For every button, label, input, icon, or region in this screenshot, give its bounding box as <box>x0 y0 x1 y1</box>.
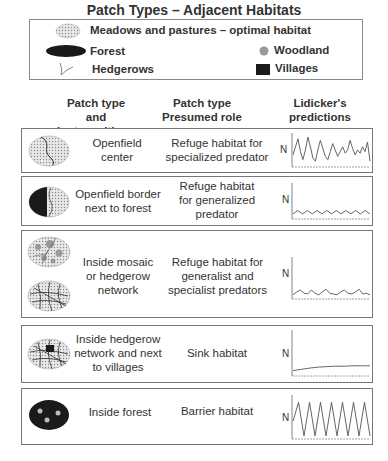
series-line <box>293 137 370 161</box>
woodland-gray-circle-icon <box>258 45 270 57</box>
legend-label-meadows: Meadows and pastures – optimal habitat <box>90 24 311 36</box>
role-label: Refuge habitat for specialized predator <box>162 136 272 164</box>
village-black-square-icon <box>255 63 271 76</box>
column-header-predictions: Lidicker's predictions <box>280 96 360 124</box>
meadow-stipple-ellipse-icon <box>55 23 81 39</box>
prediction-chart <box>290 393 372 443</box>
table-row: Inside forest Barrier habitat N <box>21 388 373 445</box>
hedgerow-line-icon <box>58 61 76 77</box>
forest-black-ellipse-icon <box>45 44 87 58</box>
inside-forest-icon <box>27 398 71 432</box>
role-label: Refuge habitat for generalist and specia… <box>160 255 275 297</box>
role-label: Barrier habitat <box>177 404 257 418</box>
role-label: Refuge habitat for generalized predator <box>174 179 260 221</box>
series-line <box>293 289 370 295</box>
mosaic-hedgerow-network-icon <box>26 234 72 316</box>
column-header-role: Patch type Presumed role <box>162 96 242 124</box>
legend-label-forest: Forest <box>90 45 125 57</box>
axis-label-n: N <box>282 412 289 423</box>
table-row: Openfield center Refuge habitat for spec… <box>21 128 373 173</box>
table-row: Inside hedgerow network and next to vill… <box>21 325 373 383</box>
axis-label-n: N <box>282 348 289 359</box>
patch-label: Inside mosaic or hedgerow network <box>77 255 159 297</box>
prediction-chart <box>290 255 372 303</box>
role-label: Sink habitat <box>177 346 257 360</box>
table-row: Inside mosaic or hedgerow network Refuge… <box>21 230 373 318</box>
series-line <box>293 211 370 214</box>
axis-label-n: N <box>280 144 287 155</box>
legend-box: Meadows and pastures – optimal habitat F… <box>29 19 363 80</box>
openfield-border-forest-icon <box>27 185 71 219</box>
legend-label-villages: Villages <box>275 62 318 74</box>
figure-title: Patch Types – Adjacent Habitats <box>0 2 388 18</box>
series-line <box>293 402 370 436</box>
legend-label-hedgerows: Hedgerows <box>92 63 154 75</box>
series-line <box>293 366 370 371</box>
patch-label: Inside forest <box>80 405 160 419</box>
patch-label: Openfield border next to forest <box>74 187 162 215</box>
openfield-center-icon <box>27 134 71 168</box>
legend-label-woodland: Woodland <box>274 44 329 56</box>
prediction-chart <box>290 131 372 171</box>
axis-label-n: N <box>282 194 289 205</box>
table-row: Openfield border next to forest Refuge h… <box>21 176 373 226</box>
patch-label: Openfield center <box>82 136 152 164</box>
axis-label-n: N <box>282 268 289 279</box>
prediction-chart <box>290 181 372 223</box>
hedgerow-village-icon <box>26 336 72 372</box>
prediction-chart <box>290 328 372 380</box>
patch-label: Inside hedgerow network and next to vill… <box>72 332 164 374</box>
